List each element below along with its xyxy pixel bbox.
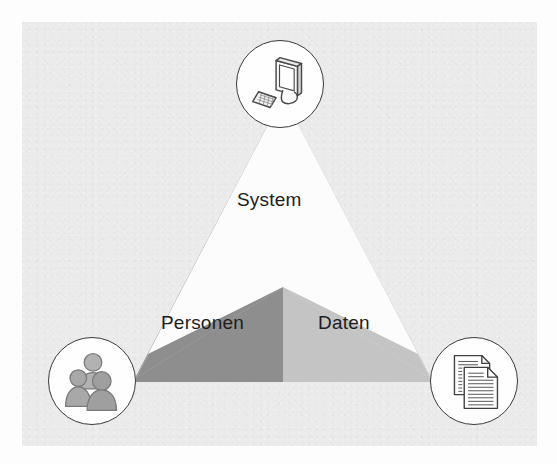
computer-monitor-keyboard-icon	[237, 41, 323, 127]
node-system[interactable]	[236, 40, 324, 128]
node-data[interactable]	[430, 337, 518, 425]
group-of-people-icon	[49, 338, 135, 424]
page-canvas: System Personen Daten	[0, 0, 557, 464]
node-people[interactable]	[48, 337, 136, 425]
stacked-documents-icon	[431, 338, 517, 424]
wedge-label-system: System	[237, 189, 302, 211]
wedge-label-daten: Daten	[318, 312, 370, 334]
wedge-label-personen: Personen	[161, 312, 244, 334]
